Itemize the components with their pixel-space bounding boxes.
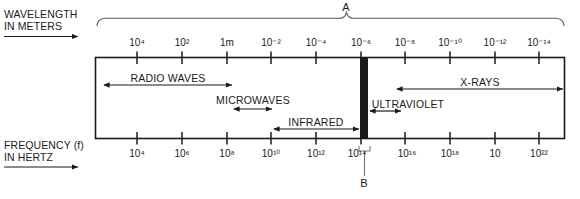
wavelength-axis-caption: WAVELENGTH IN METERS (4, 9, 77, 32)
wavelength-tick-label-7: 10⁻¹⁰ (438, 38, 461, 48)
frequency-tick-label-2: 10⁸ (219, 149, 234, 159)
spectrum-diagram-canvas (0, 0, 580, 199)
band-label-infrared: INFRARED (288, 117, 343, 128)
callout-label-b: B (360, 178, 367, 189)
frequency-tick-label-4: 10¹² (307, 149, 325, 159)
electromagnetic-spectrum-figure: WAVELENGTH IN METERS FREQUENCY (f) IN HE… (0, 0, 580, 199)
wavelength-tick-label-0: 10⁴ (129, 38, 144, 48)
frequency-tick-label-9: 10²² (530, 149, 548, 159)
frequency-tick-label-5: 10¹⁴ (348, 149, 367, 159)
wavelength-tick-label-8: 10⁻¹² (484, 38, 507, 48)
wavelength-tick-label-9: 10⁻¹⁴ (527, 38, 551, 48)
frequency-tick-label-6: 10¹⁶ (398, 149, 417, 159)
wavelength-tick-label-6: 10⁻⁸ (395, 38, 415, 48)
callout-a-brace (97, 13, 564, 27)
frequency-tick-label-3: 10¹⁰ (262, 149, 280, 159)
frequency-axis-caption: FREQUENCY (f) IN HERTZ (4, 140, 84, 163)
band-label-radio-waves: RADIO WAVES (130, 73, 205, 84)
wavelength-caption-line-1: WAVELENGTH (4, 9, 77, 21)
wavelength-tick-label-1: 10² (175, 38, 189, 48)
frequency-tick-label-8: 10 (489, 149, 500, 159)
frequency-caption-line-2: IN HERTZ (4, 152, 84, 164)
frequency-caption-line-1: FREQUENCY (f) (4, 140, 84, 152)
visible-light-bar (360, 58, 368, 138)
frequency-tick-label-1: 10⁶ (174, 149, 189, 159)
band-label-ultraviolet: ULTRAVIOLET (372, 99, 444, 110)
frequency-tick-label-7: 10¹⁸ (441, 149, 460, 159)
callout-label-a: A (342, 2, 349, 13)
band-label-x-rays: X-RAYS (460, 77, 500, 88)
frequency-tick-label-0: 10⁴ (129, 149, 144, 159)
wavelength-caption-line-2: IN METERS (4, 21, 77, 33)
band-label-microwaves: MICROWAVES (216, 95, 290, 106)
wavelength-tick-label-2: 1m (220, 38, 234, 48)
wavelength-tick-label-3: 10⁻² (261, 38, 280, 48)
wavelength-tick-label-4: 10⁻⁴ (306, 38, 326, 48)
wavelength-tick-label-5: 10⁻⁶ (351, 38, 371, 48)
